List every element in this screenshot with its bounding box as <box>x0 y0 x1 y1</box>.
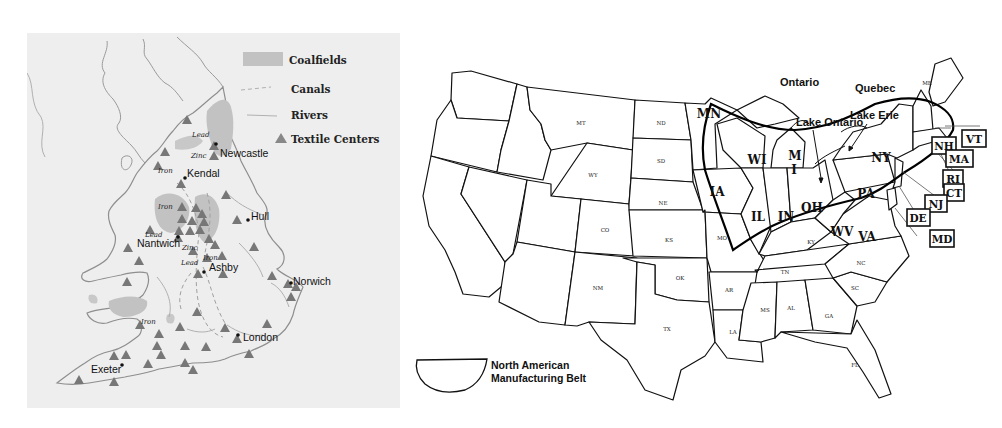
state-label-sd: SD <box>657 158 666 164</box>
city-label-newcastle: Newcastle <box>220 147 269 159</box>
england-map-svg: Coalfields Canals Rivers Textile Centers <box>27 33 400 408</box>
box-label-ct: CT <box>946 187 962 199</box>
mineral-label-zinc-mid: Zinc <box>181 244 198 252</box>
isle-of-man <box>121 156 132 170</box>
city-label-exeter: Exeter <box>91 363 122 375</box>
state-label-tx: TX <box>663 326 671 332</box>
state-label-ms: MS <box>760 307 770 313</box>
legend-canals-label: Canals <box>291 83 331 95</box>
legend-river-symbol <box>247 115 277 116</box>
city-label-kendal: Kendal <box>187 167 220 179</box>
region-label-ontario: Ontario <box>780 76 819 88</box>
mineral-label-iron-mid: Iron <box>202 254 218 262</box>
legend-canal-symbol <box>241 87 271 90</box>
mineral-label-iron-cumbria: Iron <box>157 167 173 175</box>
mineral-label-iron-lancs: Iron <box>157 203 173 211</box>
city-label-norwich: Norwich <box>293 275 331 287</box>
state-label-in: IN <box>778 210 795 224</box>
box-label-md: MD <box>932 233 953 245</box>
state-label-tn: TN <box>781 269 790 275</box>
coalfield-pembroke <box>88 294 97 303</box>
legend-textile-centers-label: Textile Centers <box>291 133 379 145</box>
state-label-ok: OK <box>676 275 686 281</box>
us-legend: North American Manufacturing Belt <box>416 359 586 392</box>
region-label-lake-erie: Lake Erie <box>850 109 899 121</box>
state-label-co: CO <box>601 227 610 233</box>
us-manufacturing-belt-map: MT ND SD WY NE CO KS NM OK TX MO AR LA M… <box>405 0 1002 428</box>
legend-coalfields-label: Coalfields <box>289 54 347 66</box>
state-label-ks: KS <box>665 237 673 243</box>
mineral-label-lead-wales: Lead <box>144 231 163 239</box>
state-label-va: VA <box>857 230 876 244</box>
state-label-pa: PA <box>857 187 875 201</box>
state-label-wy: WY <box>588 172 598 178</box>
mineral-label-lead-mid: Lead <box>180 259 199 267</box>
box-label-ma: MA <box>949 153 970 165</box>
state-label-il: IL <box>751 210 766 224</box>
legend-triangle-icon <box>275 133 287 143</box>
coastline-scotland-east <box>177 37 223 87</box>
state-nj <box>893 158 903 188</box>
city-label-ashby: Ashby <box>209 261 239 273</box>
state-ks <box>629 210 707 258</box>
state-label-nd: ND <box>656 120 666 126</box>
box-label-de: DE <box>909 212 926 224</box>
state-label-la: LA <box>729 329 738 335</box>
state-label-wi: WI <box>746 153 766 167</box>
state-wa <box>451 71 517 121</box>
uk-legend: Coalfields Canals Rivers Textile Centers <box>241 52 379 145</box>
state-label-al: AL <box>786 305 795 311</box>
mineral-label-lead-north: Lead <box>191 131 210 139</box>
state-label-ar: AR <box>724 287 734 293</box>
coastline-scotland-west <box>102 41 145 163</box>
us-map-svg: MT ND SD WY NE CO KS NM OK TX MO AR LA M… <box>405 0 1002 428</box>
state-label-mt: MT <box>576 120 586 126</box>
legend-belt-symbol <box>416 359 487 392</box>
state-label-ne: NE <box>659 200 668 206</box>
state-label-mo: MO <box>717 235 728 241</box>
state-label-sc: SC <box>851 285 859 291</box>
box-label-nj: NJ <box>929 198 944 210</box>
mineral-label-zinc-north: Zinc <box>190 152 207 160</box>
state-label-ky: KY <box>807 239 815 245</box>
state-label-ia: IA <box>710 185 726 199</box>
state-label-nm: NM <box>593 285 604 291</box>
city-label-london: London <box>243 331 278 343</box>
legend-label-line1: North American <box>491 359 569 371</box>
state-label-fl: FL <box>851 362 859 368</box>
state-label-oh: OH <box>801 201 823 215</box>
legend-rivers-label: Rivers <box>291 109 328 121</box>
state-label-mn: MN <box>697 107 721 121</box>
region-label-quebec: Quebec <box>855 82 895 94</box>
legend-coalfield-swatch <box>243 52 283 66</box>
state-de-md <box>887 188 897 210</box>
box-label-vt: VT <box>965 133 982 145</box>
state-label-nc: NC <box>856 260 865 266</box>
state-label-ny: NY <box>871 151 891 165</box>
city-label-hull: Hull <box>251 210 269 222</box>
state-label-mi-i: I <box>791 163 797 177</box>
box-label-ri: RI <box>946 173 960 185</box>
state-label-me: ME <box>922 80 932 86</box>
coalfield-bristol <box>166 314 174 324</box>
state-me <box>929 58 963 106</box>
state-mi-upper <box>737 96 799 128</box>
england-industrial-map: Coalfields Canals Rivers Textile Centers <box>27 33 400 408</box>
state-label-mi-m: M <box>788 149 801 163</box>
coastline-scotland-inner <box>143 39 183 101</box>
mineral-label-iron-wales: Iron <box>140 318 156 326</box>
legend-label-line2: Manufacturing Belt <box>491 372 587 384</box>
state-label-ga: GA <box>825 313 834 319</box>
coastline-ireland <box>27 73 45 157</box>
state-label-wv: WV <box>830 225 854 239</box>
